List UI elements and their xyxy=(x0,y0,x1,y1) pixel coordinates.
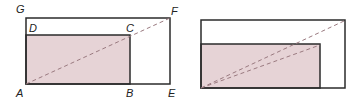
label-d: D xyxy=(29,22,37,34)
figure-right xyxy=(201,20,345,88)
label-f: F xyxy=(171,5,179,17)
label-g: G xyxy=(16,3,25,15)
label-a: A xyxy=(15,87,23,99)
label-c: C xyxy=(126,22,134,34)
figure-left: G D C F A B E xyxy=(15,3,179,99)
label-e: E xyxy=(168,87,176,99)
diagram-canvas: G D C F A B E xyxy=(0,0,360,101)
label-b: B xyxy=(126,87,133,99)
